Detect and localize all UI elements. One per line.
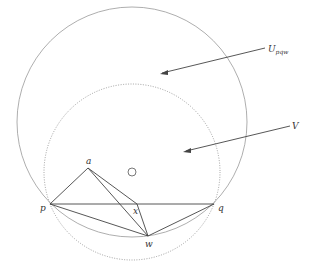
label-u: Upqw <box>268 44 289 56</box>
geometry-diagram: Upqw V a p q x w <box>0 0 314 267</box>
arrow-v <box>183 126 290 153</box>
segments <box>50 168 214 236</box>
segment-xw <box>137 204 148 236</box>
segment-ax <box>88 168 137 204</box>
label-x: x <box>133 206 138 216</box>
label-a: a <box>86 156 91 166</box>
label-q: q <box>218 203 224 213</box>
circle-v <box>44 84 220 260</box>
segment-wq <box>148 204 214 236</box>
label-w: w <box>145 239 153 249</box>
center-marker <box>128 168 136 176</box>
label-v: V <box>292 121 300 131</box>
segment-pa <box>50 168 88 204</box>
arrow-u <box>160 48 265 75</box>
label-p: p <box>40 203 46 213</box>
